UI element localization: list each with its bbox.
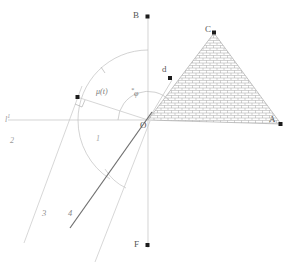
point-marker-e xyxy=(76,95,80,99)
figure-canvas: B F C A d O μ(t) *φ l1 2 3 4 1 xyxy=(0,0,293,265)
bold-ray-4 xyxy=(70,112,152,228)
line-3 xyxy=(95,121,150,262)
lower-angle-arc xyxy=(105,169,126,188)
diagram-svg xyxy=(0,0,293,265)
radius-to-e xyxy=(77,97,148,120)
point-marker-d xyxy=(168,76,172,80)
arc-tick xyxy=(101,67,105,73)
point-marker-A xyxy=(279,122,283,126)
hatched-wedge xyxy=(148,33,281,124)
outer-arc-lower xyxy=(78,120,110,179)
line-2 xyxy=(24,86,82,243)
point-marker-C xyxy=(212,31,216,35)
point-marker-F xyxy=(146,243,150,247)
outer-arc-mu xyxy=(78,50,148,120)
point-marker-B xyxy=(146,15,150,19)
